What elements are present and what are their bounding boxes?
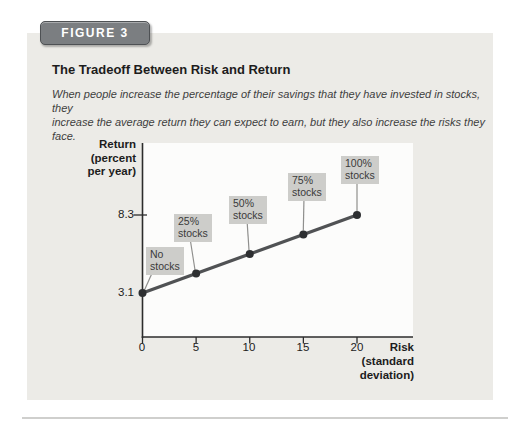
- leader-line: [303, 197, 304, 231]
- y-tick-label-8-3: 8.3: [94, 208, 134, 220]
- x-tick-label-10: 10: [229, 341, 269, 353]
- point-label-100-stocks: 100% stocks: [341, 156, 379, 184]
- data-point: [299, 231, 307, 239]
- figure-page: FIGURE 3 The Tradeoff Between Risk and R…: [0, 0, 510, 422]
- y-tick-label-3-1: 3.1: [94, 286, 134, 298]
- x-tick-label-0: 0: [122, 341, 162, 353]
- data-point: [139, 289, 147, 297]
- x-tick-label-5: 5: [176, 341, 216, 353]
- page-divider-line: [22, 417, 508, 419]
- x-tick-label-15: 15: [283, 341, 323, 353]
- point-label-50-stocks: 50% stocks: [229, 196, 267, 224]
- x-tick-label-20: 20: [337, 341, 377, 353]
- y-axis-title: Return (percent per year): [56, 138, 136, 179]
- point-label-no-stocks: No stocks: [146, 247, 184, 275]
- data-point: [246, 250, 254, 258]
- point-label-25-stocks: 25% stocks: [174, 214, 212, 242]
- data-point: [192, 270, 200, 278]
- point-label-75-stocks: 75% stocks: [288, 173, 326, 201]
- data-point: [353, 211, 361, 219]
